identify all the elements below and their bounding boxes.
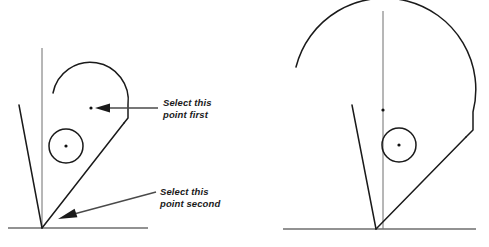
callout-select-second: Select this point second (58, 186, 220, 219)
callout-second-line1: Select this (160, 186, 209, 197)
right-cam-taper-edge (376, 137, 466, 229)
right-view-group (283, 0, 476, 229)
leader-line-second (74, 192, 156, 214)
cad-selection-diagram: Select this point first Select this poin… (0, 0, 489, 247)
arrowhead-second (58, 209, 77, 219)
callout-first-line1: Select this (163, 97, 212, 108)
right-construction-line (352, 105, 376, 229)
arrowhead-first (95, 104, 110, 113)
left-construction-line (19, 105, 42, 228)
callout-second-line2: point second (159, 198, 220, 209)
left-cam-arc (53, 62, 128, 123)
left-view-group (8, 48, 148, 228)
right-circle-center-dot (397, 143, 400, 146)
diagram-canvas: Select this point first Select this poin… (0, 0, 489, 247)
right-selection-point[interactable] (381, 108, 384, 111)
callout-select-first: Select this point first (95, 97, 212, 120)
left-circle-center-dot (64, 144, 67, 147)
callout-first-line2: point first (162, 109, 209, 120)
left-selection-point-first[interactable] (89, 106, 92, 109)
right-cam-arc (296, 0, 476, 137)
